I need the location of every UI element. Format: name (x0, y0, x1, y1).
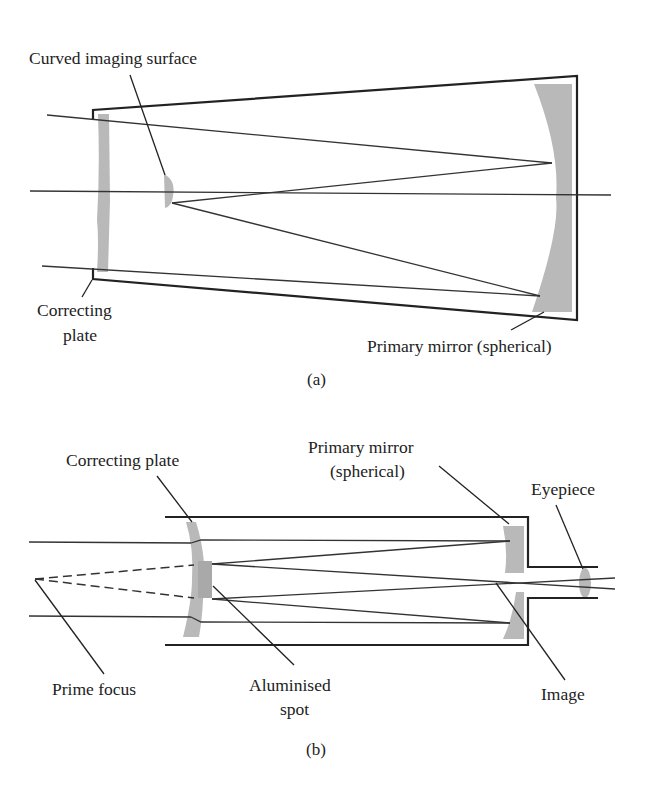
caption-b: (b) (306, 740, 326, 759)
leader-primary-mirror-b (439, 466, 509, 524)
dash-prime-focus-top (35, 565, 194, 579)
ray-a-top (47, 115, 552, 163)
leader-curved-imaging-surface (130, 75, 165, 175)
eyepiece-lens (579, 568, 591, 598)
tube-b-upper (165, 517, 598, 567)
ray-b-top-reflect (212, 541, 510, 564)
ray-a-bottom-reflect (172, 203, 540, 296)
leader-prime-focus (35, 580, 104, 674)
correcting-plate-a (97, 114, 110, 272)
label-correcting-plate-b: Correcting plate (66, 450, 179, 470)
label-aluminised-spot-line1: Aluminised (249, 675, 331, 695)
caption-a: (a) (307, 370, 326, 389)
ray-b-spot-to-image-2 (212, 578, 615, 599)
label-prime-focus: Prime focus (52, 679, 136, 699)
leader-correcting-plate-a (82, 280, 92, 297)
ray-b-bottom-through (191, 617, 510, 623)
label-correcting-plate-a-line1: Correcting (37, 300, 112, 320)
label-primary-mirror-a: Primary mirror (spherical) (367, 336, 552, 356)
label-eyepiece: Eyepiece (531, 479, 595, 499)
primary-mirror-b-upper (503, 526, 524, 573)
aluminised-spot (198, 561, 212, 598)
telescope-diagram: Curved imaging surface Correcting plate … (0, 0, 648, 803)
label-image: Image (541, 684, 585, 704)
label-curved-imaging-surface: Curved imaging surface (29, 48, 197, 68)
ray-a-axis (30, 191, 611, 195)
ray-b-in-bottom (29, 616, 191, 617)
label-primary-mirror-b-line1: Primary mirror (308, 437, 414, 457)
ray-b-top-through (191, 540, 510, 543)
label-primary-mirror-b-line2: (spherical) (330, 461, 405, 481)
label-aluminised-spot-line2: spot (280, 699, 309, 719)
leader-correcting-plate-b (157, 476, 192, 522)
ray-b-in-top (29, 542, 191, 543)
dash-prime-focus-bottom (35, 579, 194, 598)
primary-mirror-b-lower (503, 592, 524, 639)
ray-b-bottom-reflect (212, 599, 510, 623)
leader-aluminised-spot (213, 586, 294, 665)
figure-a-schmidt-camera: Curved imaging surface Correcting plate … (29, 48, 611, 389)
ray-a-top-reflect (172, 163, 552, 203)
primary-mirror-a (532, 84, 572, 312)
figure-b-schmidt-cassegrain: Correcting plate Primary mirror (spheric… (29, 437, 615, 759)
leader-eyepiece (556, 505, 583, 569)
label-correcting-plate-a-line2: plate (63, 325, 97, 345)
